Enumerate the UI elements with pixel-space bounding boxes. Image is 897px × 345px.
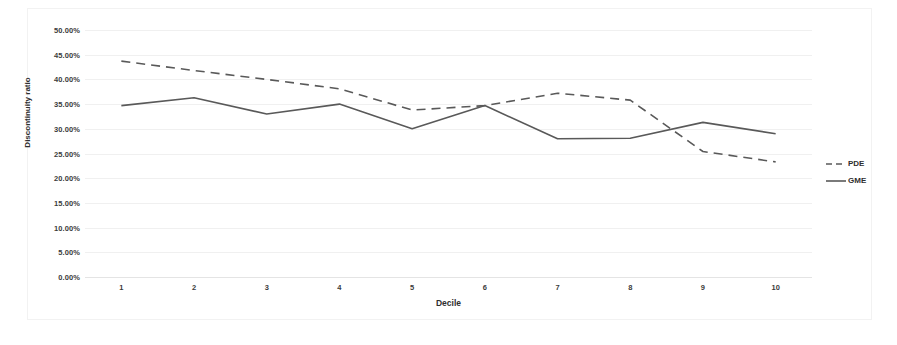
plot-area <box>85 30 812 277</box>
x-axis-tick-label: 2 <box>192 283 196 292</box>
gridline <box>85 277 812 278</box>
x-axis-tick-label: 1 <box>119 283 123 292</box>
x-axis-tick-label: 8 <box>628 283 632 292</box>
legend-label: PDE <box>848 159 864 168</box>
x-axis-tick-label: 5 <box>410 283 414 292</box>
y-axis-tick-label: 0.00% <box>58 273 80 282</box>
series-lines <box>85 30 812 277</box>
x-axis-tick-label: 7 <box>555 283 559 292</box>
x-axis-title: Decile <box>85 298 812 308</box>
y-axis-tick-label: 30.00% <box>54 124 80 133</box>
x-axis-tick-label: 9 <box>701 283 705 292</box>
x-axis-tick-label: 4 <box>337 283 341 292</box>
x-axis-tick-label: 3 <box>265 283 269 292</box>
legend-label: GME <box>848 176 866 185</box>
legend-item-gme[interactable]: GME <box>826 172 892 189</box>
series-line-pde <box>121 61 775 162</box>
x-axis-tick-label: 6 <box>483 283 487 292</box>
y-axis-tick-label: 20.00% <box>54 174 80 183</box>
y-axis-tick-label: 35.00% <box>54 100 80 109</box>
y-axis-tick-label: 50.00% <box>54 26 80 35</box>
series-line-gme <box>121 98 775 139</box>
chart-container: Discontinuity ratio 0.00%5.00%10.00%15.0… <box>0 0 897 345</box>
x-axis-tick-label: 10 <box>771 283 779 292</box>
x-axis-tick-labels: 12345678910 <box>85 283 812 297</box>
y-axis-tick-label: 40.00% <box>54 75 80 84</box>
y-axis-tick-label: 15.00% <box>54 198 80 207</box>
legend-swatch-gme-icon <box>826 177 846 185</box>
legend-swatch-pde-icon <box>826 160 846 168</box>
chart-legend: PDEGME <box>826 155 892 189</box>
y-axis-tick-labels: 0.00%5.00%10.00%15.00%20.00%25.00%30.00%… <box>30 30 80 277</box>
y-axis-tick-label: 10.00% <box>54 223 80 232</box>
y-axis-tick-label: 5.00% <box>58 248 80 257</box>
y-axis-tick-label: 45.00% <box>54 50 80 59</box>
y-axis-tick-label: 25.00% <box>54 149 80 158</box>
legend-item-pde[interactable]: PDE <box>826 155 892 172</box>
